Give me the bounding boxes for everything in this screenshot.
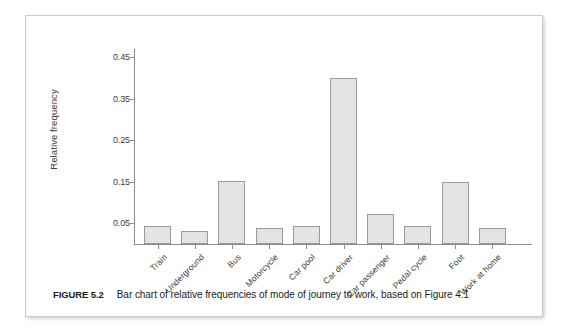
y-axis-tick-label: 0.45	[96, 52, 130, 62]
y-axis-title: Relative frequency	[48, 55, 59, 205]
figure-card: Relative frequency 0.450.350.250.150.05 …	[25, 15, 543, 317]
y-axis-tick-label: 0.35	[96, 94, 130, 104]
y-axis-tick-label: 0.25	[96, 135, 130, 145]
x-axis-tick-labels: TrainUndergroundBusMotorcycleCar poolCar…	[134, 16, 532, 274]
bar-chart: Relative frequency 0.450.350.250.150.05 …	[26, 16, 544, 274]
y-axis-tick-label: 0.05	[96, 218, 130, 228]
x-axis-tick-label: Bus	[225, 252, 243, 270]
figure-caption-text: Bar chart of relative frequencies of mod…	[117, 289, 469, 300]
x-axis-tick-label: Foot	[447, 252, 466, 271]
y-axis-tick-label: 0.15	[96, 177, 130, 187]
figure-number: FIGURE 5.2	[53, 289, 104, 300]
y-axis-tick-labels: 0.450.350.250.150.05	[96, 16, 130, 274]
x-axis-tick-label: Train	[148, 252, 169, 273]
figure-caption: FIGURE 5.2 Bar chart of relative frequen…	[26, 272, 544, 316]
